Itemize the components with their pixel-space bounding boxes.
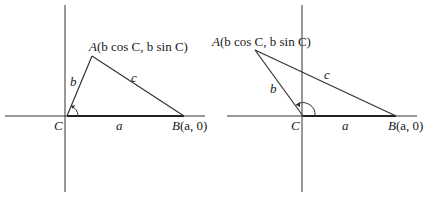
vertex-a-label: A: [88, 39, 97, 54]
side-b-label: b: [70, 74, 77, 89]
svg-text:A(b cos C, b sin C): A(b cos C, b sin C): [211, 34, 311, 49]
svg-text:A(b cos C, b sin C): A(b cos C, b sin C): [88, 39, 188, 54]
vertex-c-label: C: [291, 118, 300, 133]
side-b: [255, 50, 303, 116]
vertex-b-label: B: [388, 118, 396, 133]
side-a-label: a: [342, 118, 349, 133]
side-b-label: b: [270, 81, 277, 96]
side-a-label: a: [116, 118, 123, 133]
diagram-canvas: A(b cos C, b sin C) C B(a, 0) a b c A(b …: [0, 0, 427, 198]
vertex-a-label: A: [211, 34, 220, 49]
vertex-b-coords: (a, 0): [180, 118, 207, 133]
svg-text:B(a, 0): B(a, 0): [172, 118, 207, 133]
vertex-c-label: C: [54, 118, 63, 133]
svg-text:B(a, 0): B(a, 0): [388, 118, 423, 133]
side-c: [92, 56, 184, 116]
side-c-label: c: [131, 70, 137, 85]
vertex-b-coords: (a, 0): [396, 118, 423, 133]
figure-acute: A(b cos C, b sin C) C B(a, 0) a b c: [5, 5, 207, 192]
vertex-b-label: B: [172, 118, 180, 133]
figure-obtuse: A(b cos C, b sin C) C B(a, 0) a b c: [211, 5, 423, 192]
vertex-a-coords: (b cos C, b sin C): [97, 39, 188, 54]
side-c-label: c: [324, 67, 330, 82]
vertex-a-coords: (b cos C, b sin C): [220, 34, 311, 49]
